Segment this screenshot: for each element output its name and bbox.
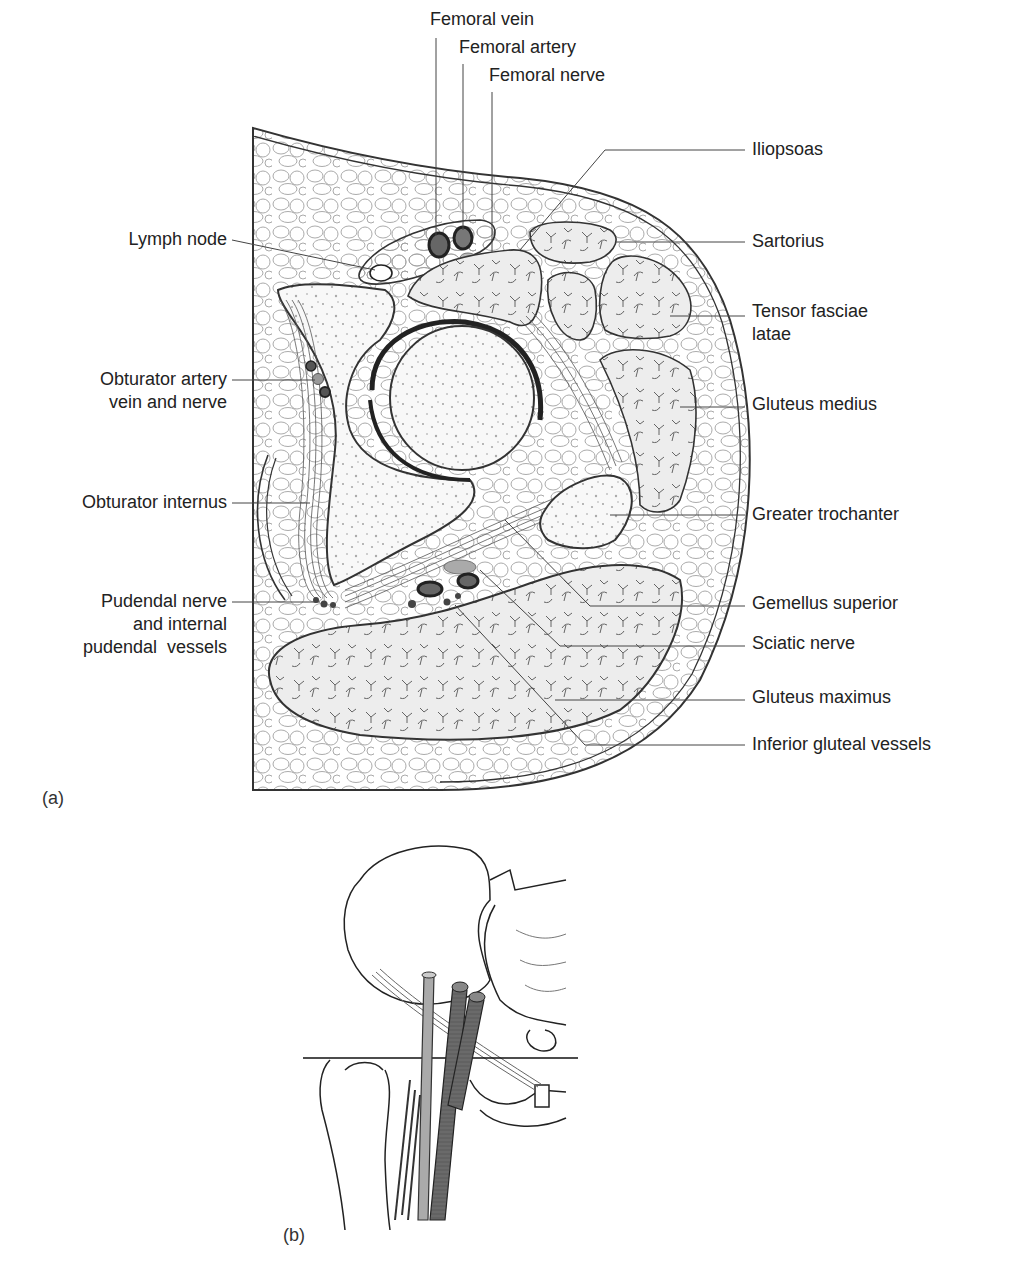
label-femoral-vein: Femoral vein xyxy=(430,8,534,31)
label-pudendal-2: and internal xyxy=(133,613,227,636)
label-obturator-artery-1: Obturator artery xyxy=(100,368,227,391)
femoral-head xyxy=(390,326,534,470)
sacrum xyxy=(484,870,566,1025)
label-sartorius: Sartorius xyxy=(752,230,824,253)
label-sciatic-nerve: Sciatic nerve xyxy=(752,632,855,655)
label-greater-trochanter: Greater trochanter xyxy=(752,503,899,526)
ilium xyxy=(344,846,490,1004)
femoral-artery-shape xyxy=(454,227,472,249)
label-pudendal-1: Pudendal nerve xyxy=(101,590,227,613)
label-femoral-nerve: Femoral nerve xyxy=(489,64,605,87)
label-pudendal-3: pudendal vessels xyxy=(83,636,227,659)
label-tensor-fasciae-latae-1: Tensor fasciae xyxy=(752,300,868,323)
label-gluteus-maximus: Gluteus maximus xyxy=(752,686,891,709)
label-tensor-fasciae-latae-2: latae xyxy=(752,323,791,346)
label-femoral-artery: Femoral artery xyxy=(459,36,576,59)
label-obturator-artery-2: vein and nerve xyxy=(109,391,227,414)
panel-letter-a: (a) xyxy=(42,788,64,809)
sciatic-nerve-shape xyxy=(444,560,476,574)
label-iliopsoas: Iliopsoas xyxy=(752,138,823,161)
label-lymph-node: Lymph node xyxy=(129,228,227,251)
panel-a-section xyxy=(253,128,750,790)
sartorius-shape xyxy=(530,222,616,263)
femur xyxy=(320,1060,345,1230)
label-obturator-internus: Obturator internus xyxy=(82,491,227,514)
femoral-vein-shape xyxy=(429,233,449,257)
lymph-node-shape xyxy=(370,265,392,281)
inferior-gluteal-vessel xyxy=(458,574,478,588)
label-gemellus-superior: Gemellus superior xyxy=(752,592,898,615)
panel-b-vessels xyxy=(395,972,485,1220)
label-gluteus-medius: Gluteus medius xyxy=(752,393,877,416)
label-inferior-gluteal-vessels: Inferior gluteal vessels xyxy=(752,733,931,756)
panel-letter-b: (b) xyxy=(283,1225,305,1246)
